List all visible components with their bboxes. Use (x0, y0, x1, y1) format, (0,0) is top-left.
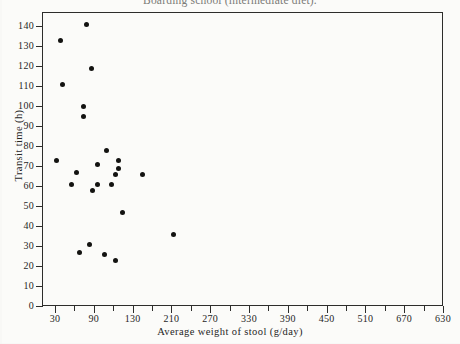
data-point (113, 258, 118, 263)
y-axis-tick-label: 20 (23, 260, 34, 271)
x-axis-tick-label: 90 (88, 313, 99, 324)
data-point (171, 232, 176, 237)
x-axis-tick (249, 306, 250, 313)
y-axis-tick-label: 140 (18, 20, 34, 31)
y-axis-tick-label: 70 (23, 160, 34, 171)
chart-title: Boarding school (intermediate diet). (0, 0, 460, 6)
x-axis-tick-label: 330 (241, 313, 257, 324)
plot-area (42, 12, 443, 306)
y-axis-tick-label: 40 (23, 220, 34, 231)
data-point (120, 210, 125, 215)
data-point (74, 170, 79, 175)
data-point (102, 252, 107, 257)
y-axis-tick (36, 206, 43, 207)
x-axis-tick (171, 306, 172, 313)
x-axis-tick-label: 390 (280, 313, 296, 324)
x-axis-tick (288, 306, 289, 313)
data-point (89, 66, 94, 71)
y-axis-tick (36, 246, 43, 247)
data-point (84, 22, 89, 27)
data-point (95, 162, 100, 167)
x-axis-tick-label: 210 (163, 313, 179, 324)
y-axis-tick (36, 186, 43, 187)
x-axis-tick (365, 306, 366, 313)
x-axis-minor-tick (74, 306, 75, 311)
data-point (58, 38, 63, 43)
x-axis-tick-label: 670 (396, 313, 412, 324)
data-point (116, 158, 121, 163)
data-point (95, 182, 100, 187)
data-point (54, 158, 59, 163)
x-axis-tick (443, 306, 444, 313)
y-axis-tick (36, 106, 43, 107)
x-axis-tick (210, 306, 211, 313)
y-axis-tick (36, 126, 43, 127)
x-axis-tick (133, 306, 134, 313)
y-axis-tick (36, 66, 43, 67)
y-axis-tick (36, 306, 43, 307)
y-axis-tick (36, 86, 43, 87)
data-point (109, 182, 114, 187)
x-axis-tick-label: 630 (435, 313, 451, 324)
data-point (81, 114, 86, 119)
y-axis-tick (36, 166, 43, 167)
y-axis-tick-label: 80 (23, 140, 34, 151)
x-axis-tick-label: 450 (319, 313, 335, 324)
x-axis-tick-label: 270 (202, 313, 218, 324)
data-point (140, 172, 145, 177)
x-axis-minor-tick (385, 306, 386, 311)
y-axis-tick-label: 90 (23, 120, 34, 131)
data-point (81, 104, 86, 109)
x-axis-label: Average weight of stool (g/day) (0, 326, 460, 337)
x-axis-minor-tick (424, 306, 425, 311)
figure-page: Boarding school (intermediate diet). 010… (0, 0, 460, 344)
y-axis-tick-label: 130 (18, 40, 34, 51)
y-axis-tick-label: 60 (23, 180, 34, 191)
y-axis-tick-label: 0 (29, 300, 34, 311)
data-point (69, 182, 74, 187)
data-point (113, 172, 118, 177)
data-point (87, 242, 92, 247)
y-axis-tick (36, 266, 43, 267)
x-axis-minor-tick (346, 306, 347, 311)
y-axis-tick (36, 146, 43, 147)
data-point (90, 188, 95, 193)
x-axis-tick (94, 306, 95, 313)
data-point (116, 166, 121, 171)
y-axis-tick-label: 30 (23, 240, 34, 251)
x-axis-tick (404, 306, 405, 313)
x-axis-minor-tick (152, 306, 153, 311)
y-axis-tick-label: 10 (23, 280, 34, 291)
x-axis-minor-tick (307, 306, 308, 311)
data-point (77, 250, 82, 255)
y-axis-tick (36, 26, 43, 27)
x-axis-tick (55, 306, 56, 313)
x-axis-minor-tick (268, 306, 269, 311)
data-point (104, 148, 109, 153)
x-axis-minor-tick (191, 306, 192, 311)
x-axis-tick-label: 30 (50, 313, 61, 324)
x-axis-tick-label: 130 (125, 313, 141, 324)
x-axis-minor-tick (113, 306, 114, 311)
y-axis-tick (36, 226, 43, 227)
x-axis-tick-label: 510 (357, 313, 373, 324)
y-axis-label: Transit time (h) (13, 76, 24, 216)
y-axis-tick-label: 50 (23, 200, 34, 211)
data-point (60, 82, 65, 87)
y-axis-tick (36, 46, 43, 47)
y-axis-tick (36, 286, 43, 287)
x-axis-tick (327, 306, 328, 313)
y-axis-tick-label: 120 (18, 60, 34, 71)
x-axis-minor-tick (230, 306, 231, 311)
